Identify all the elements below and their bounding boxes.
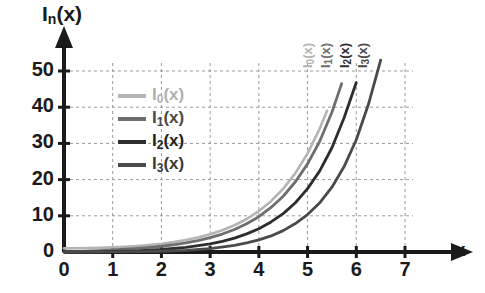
legend-label-i0: I0(x) — [152, 85, 184, 106]
y-axis-label-arg: (x) — [56, 2, 82, 25]
y-tick-label-50: 50 — [14, 58, 54, 81]
legend-swatch-i2 — [118, 140, 146, 144]
legend-label-i3: I3(x) — [152, 154, 184, 175]
y-tick-label-0: 0 — [14, 239, 54, 262]
x-tick-label-3: 3 — [197, 258, 223, 281]
curve-tag-i1: I1(x) — [318, 43, 334, 68]
x-tick-label-1: 1 — [100, 258, 126, 281]
x-tick-label-6: 6 — [343, 258, 369, 281]
legend: I0(x) I1(x) I2(x) I3(x) — [118, 84, 184, 176]
legend-swatch-i1 — [118, 117, 146, 121]
legend-item-i0: I0(x) — [118, 84, 184, 107]
curve-I_3(x) — [64, 60, 381, 252]
legend-label-i2: I2(x) — [152, 131, 184, 152]
data-curves — [64, 60, 381, 252]
x-tick-label-0: 0 — [51, 258, 77, 281]
x-tick-label-2: 2 — [148, 258, 174, 281]
y-tick-label-10: 10 — [14, 203, 54, 226]
curve-tag-i2: I2(x) — [337, 43, 353, 68]
plot-canvas — [0, 0, 485, 293]
y-tick-label-40: 40 — [14, 94, 54, 117]
y-axis-arrowhead — [55, 26, 73, 48]
legend-label-i1: I1(x) — [152, 108, 184, 129]
x-tick-label-7: 7 — [392, 258, 418, 281]
y-tick-label-30: 30 — [14, 130, 54, 153]
legend-swatch-i3 — [118, 163, 146, 167]
legend-swatch-i0 — [118, 94, 146, 98]
y-tick-label-20: 20 — [14, 167, 54, 190]
x-axis-label: x — [455, 239, 466, 261]
legend-item-i1: I1(x) — [118, 107, 184, 130]
curve-tag-i0: I0(x) — [300, 43, 316, 68]
legend-item-i2: I2(x) — [118, 130, 184, 153]
legend-item-i3: I3(x) — [118, 153, 184, 176]
y-axis-label: In(x) — [42, 2, 82, 27]
curve-tag-i3: I3(x) — [355, 43, 371, 68]
chart-figure: In(x) x 01020304050 01234567 I0(x) I1(x)… — [0, 0, 485, 293]
x-tick-label-5: 5 — [295, 258, 321, 281]
x-tick-label-4: 4 — [246, 258, 272, 281]
